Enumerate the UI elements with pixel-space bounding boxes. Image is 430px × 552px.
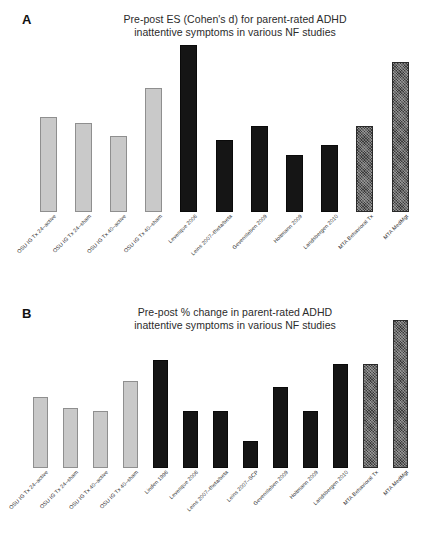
bar-a-8: [321, 145, 338, 212]
bar-a-6: [251, 126, 268, 212]
panel-a-title: Pre-post ES (Cohen's d) for parent-rated…: [60, 13, 410, 39]
panel-b-axis-labels: OSU IG Tx 24–activeOSU IG Tx 24–shamOSU …: [0, 469, 430, 541]
bar-b-10: [333, 364, 348, 468]
panel-a-title-line2: inattentive symptoms in various NF studi…: [60, 26, 410, 39]
bar-a-5: [216, 140, 233, 212]
bar-b-1: [63, 408, 78, 468]
bar-b-4: [153, 360, 168, 468]
bar-b-0: [33, 397, 48, 468]
bar-b-9: [303, 411, 318, 468]
bar-b-2: [93, 411, 108, 468]
bar-a-10: [392, 62, 409, 212]
panel-a-plot-area: [0, 40, 430, 212]
bar-b-5: [183, 411, 198, 468]
bar-a-9: [356, 126, 373, 212]
bar-a-3: [145, 88, 162, 212]
panel-a-axis-labels: OSU IG Tx 24–activeOSU IG Tx 24–shamOSU …: [0, 213, 430, 285]
bar-b-6: [213, 411, 228, 468]
panel-a: A Pre-post ES (Cohen's d) for parent-rat…: [0, 0, 430, 278]
bar-a-0: [40, 117, 57, 212]
bar-b-11: [363, 364, 378, 468]
panel-b-plot-area: [0, 300, 430, 468]
bar-a-2: [110, 136, 127, 212]
bar-a-7: [286, 155, 303, 212]
bar-a-4: [180, 45, 197, 212]
bar-b-8: [273, 387, 288, 468]
panel-b: B Pre-post % change in parent-rated ADHD…: [0, 278, 430, 552]
bar-b-12: [393, 320, 408, 468]
panel-a-letter: A: [22, 12, 32, 27]
panel-a-title-line1: Pre-post ES (Cohen's d) for parent-rated…: [60, 13, 410, 26]
bar-a-1: [75, 123, 92, 212]
bar-b-3: [123, 381, 138, 468]
bar-b-7: [243, 441, 258, 468]
